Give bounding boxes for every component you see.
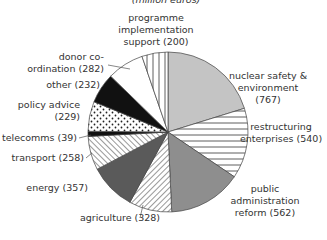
slice-label: restructuringenterprises (540)	[240, 121, 322, 144]
slice-label: telecomms (39)	[2, 132, 77, 143]
leader-line	[86, 153, 92, 158]
slice-label: donor co-ordination (282)	[27, 51, 104, 74]
slice-label: programmeimplementationsupport (200)	[118, 12, 193, 47]
slice-label: other (232)	[46, 79, 100, 90]
slice-label: policy advice(229)	[18, 99, 80, 122]
slice-label: transport (258)	[12, 152, 84, 163]
chart-subtitle: (million euros)	[132, 0, 201, 5]
pie-slices	[88, 52, 248, 212]
pie-chart: (million euros) nuclear safety &environm…	[0, 0, 327, 240]
slice-label: energy (357)	[26, 182, 88, 193]
slice-label: publicadministrationreform (562)	[230, 183, 299, 218]
slice-label: agriculture (328)	[80, 212, 160, 223]
